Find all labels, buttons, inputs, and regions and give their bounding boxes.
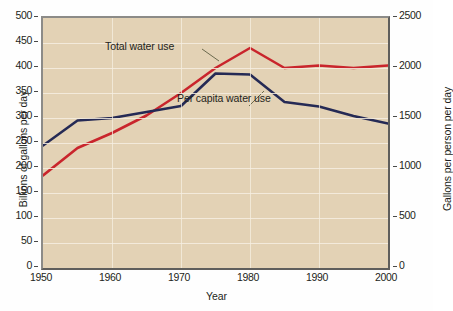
leader-line-total-water-use xyxy=(202,49,219,61)
gridline-vertical xyxy=(250,18,251,268)
gridline-horizontal xyxy=(43,168,388,169)
gridline-horizontal xyxy=(43,43,388,44)
gridline-horizontal xyxy=(43,143,388,144)
y-axis-right-tick-label: 1000 xyxy=(399,159,439,171)
gridline-horizontal xyxy=(43,68,388,69)
y-axis-right-tick-label: 500 xyxy=(399,209,439,221)
y-axis-right-tick-mark xyxy=(393,116,397,117)
y-axis-left-tick-mark xyxy=(34,241,38,242)
gridline-horizontal xyxy=(43,243,388,244)
plot-area xyxy=(41,16,390,270)
y-axis-right-tick-label: 2500 xyxy=(399,9,439,21)
y-axis-title-left: Billions of gallons per day xyxy=(17,64,29,234)
x-axis-title: Year xyxy=(0,290,433,302)
y-axis-right-tick-mark xyxy=(393,166,397,167)
y-axis-right-tick-mark xyxy=(393,16,397,17)
x-axis: 195019601970198019902000 xyxy=(41,271,390,287)
y-axis-left-tick-mark xyxy=(34,191,38,192)
gridline-vertical xyxy=(181,18,182,268)
y-axis-right-tick-mark xyxy=(393,66,397,67)
y-axis-right-tick-label: 1500 xyxy=(399,109,439,121)
annotation-total-water-use: Total water use xyxy=(105,40,174,52)
y-axis-left-tick-mark xyxy=(34,41,38,42)
y-axis-left-tick-mark xyxy=(34,266,38,267)
x-axis-tick-label: 1970 xyxy=(168,271,190,283)
x-axis-tick-label: 2000 xyxy=(375,271,397,283)
figure-caption xyxy=(4,302,304,311)
annotation-per-capita-water-use: Per capita water use xyxy=(177,92,271,104)
x-axis-tick-label: 1960 xyxy=(99,271,121,283)
y-axis-left-tick-mark xyxy=(34,16,38,17)
x-axis-tick-label: 1950 xyxy=(30,271,52,283)
y-axis-left-tick-mark xyxy=(34,166,38,167)
y-axis-title-right: Gallons per person per day xyxy=(441,49,453,249)
y-axis-right-tick-mark xyxy=(393,216,397,217)
y-axis-right-tick-label: 2000 xyxy=(399,59,439,71)
y-axis-right-tick-mark xyxy=(393,266,397,267)
series-line-per-capita-water-use xyxy=(43,74,388,146)
y-axis-left-tick-mark xyxy=(34,141,38,142)
y-axis-left-tick-label: 500 xyxy=(0,9,32,21)
y-axis-left-tick-label: 0 xyxy=(0,259,32,271)
y-axis-left-tick-mark xyxy=(34,116,38,117)
x-axis-tick-label: 1990 xyxy=(306,271,328,283)
y-axis-left-tick-mark xyxy=(34,216,38,217)
y-axis-left-tick-label: 450 xyxy=(0,34,32,46)
y-axis-left-tick-mark xyxy=(34,91,38,92)
y-axis-left-tick-label: 50 xyxy=(0,234,32,246)
gridline-horizontal xyxy=(43,193,388,194)
y-axis-right: 05001000150020002500 xyxy=(393,16,433,270)
x-axis-tick-label: 1980 xyxy=(237,271,259,283)
y-axis-left-tick-mark xyxy=(34,66,38,67)
plot-inner xyxy=(43,18,388,268)
gridline-vertical xyxy=(319,18,320,268)
gridline-horizontal xyxy=(43,218,388,219)
y-axis-right-tick-label: 0 xyxy=(399,259,439,271)
gridline-vertical xyxy=(112,18,113,268)
gridline-horizontal xyxy=(43,118,388,119)
